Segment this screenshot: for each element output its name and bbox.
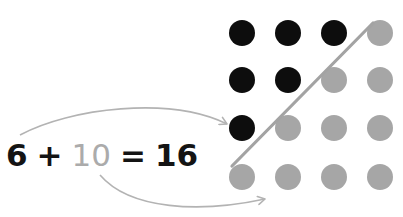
arrow-to-black-dots bbox=[20, 108, 227, 135]
grey-dot bbox=[321, 164, 347, 190]
diagram-canvas: 6+10=16 bbox=[0, 0, 403, 217]
equation-equals-sign: = bbox=[120, 138, 146, 172]
black-dot bbox=[229, 20, 255, 46]
grey-dot bbox=[367, 164, 393, 190]
black-dot bbox=[229, 67, 255, 93]
equation-addend-grey: 10 bbox=[72, 138, 111, 172]
grey-dot bbox=[229, 164, 255, 190]
black-dot bbox=[275, 20, 301, 46]
dot-grid-and-arrows bbox=[0, 0, 403, 217]
equation-plus-sign: + bbox=[37, 138, 63, 172]
black-dot bbox=[275, 67, 301, 93]
dot-grid bbox=[229, 20, 393, 190]
black-dot bbox=[229, 115, 255, 141]
equation-sum: 16 bbox=[155, 138, 198, 172]
grey-dot bbox=[321, 115, 347, 141]
black-dot bbox=[321, 20, 347, 46]
equation: 6+10=16 bbox=[6, 138, 198, 172]
divider-line bbox=[232, 23, 373, 166]
grey-dot bbox=[367, 115, 393, 141]
equation-addend-black: 6 bbox=[6, 138, 28, 172]
grey-dot bbox=[367, 67, 393, 93]
grey-dot bbox=[275, 164, 301, 190]
